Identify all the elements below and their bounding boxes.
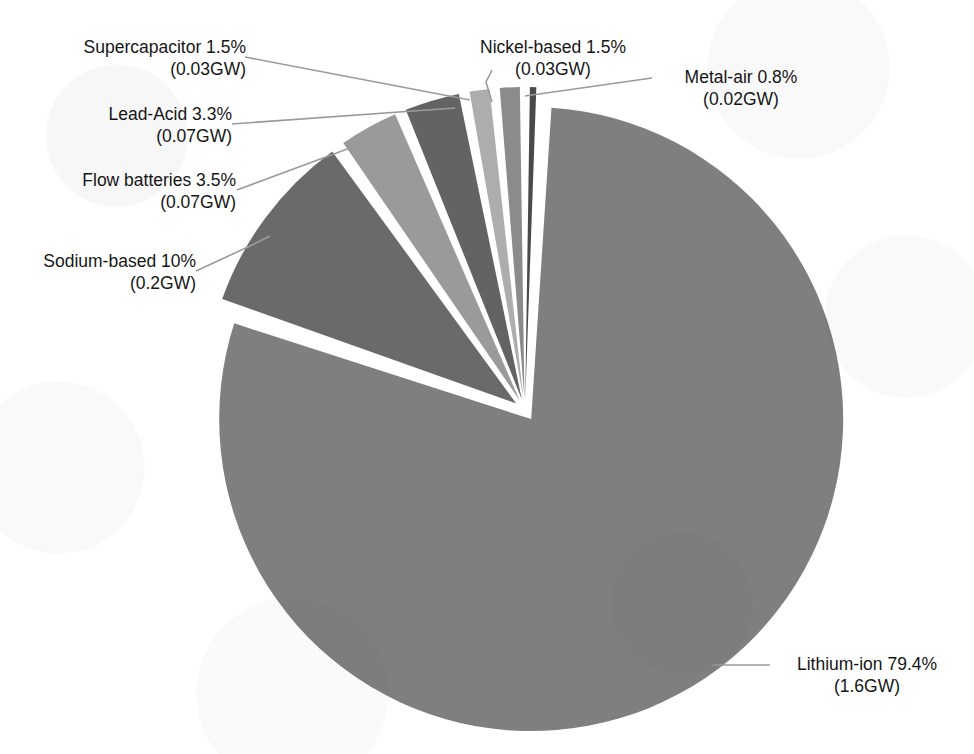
label-lead-acid-line2: (0.07GW)	[40, 125, 232, 147]
label-lead-acid-line1: Lead-Acid 3.3%	[40, 103, 232, 125]
label-lithium-ion-line1: Lithium-ion 79.4%	[778, 653, 956, 675]
label-lithium-ion-line2: (1.6GW)	[778, 675, 956, 697]
label-metal-air-line2: (0.02GW)	[652, 88, 830, 110]
label-nickel-based: Nickel-based 1.5% (0.03GW)	[462, 36, 644, 81]
label-supercapacitor-line1: Supercapacitor 1.5%	[40, 36, 246, 58]
label-nickel-based-line1: Nickel-based 1.5%	[462, 36, 644, 58]
pie-slice-metal-air	[525, 87, 536, 399]
label-supercapacitor: Supercapacitor 1.5% (0.03GW)	[40, 36, 246, 81]
label-flow-batteries-line1: Flow batteries 3.5%	[30, 169, 236, 191]
label-sodium-based-line1: Sodium-based 10%	[10, 250, 196, 272]
label-sodium-based: Sodium-based 10% (0.2GW)	[10, 250, 196, 295]
label-lithium-ion: Lithium-ion 79.4% (1.6GW)	[778, 653, 956, 698]
label-flow-batteries: Flow batteries 3.5% (0.07GW)	[30, 169, 236, 214]
label-flow-batteries-line2: (0.07GW)	[30, 191, 236, 213]
label-nickel-based-line2: (0.03GW)	[462, 58, 644, 80]
label-supercapacitor-line2: (0.03GW)	[40, 58, 246, 80]
label-lead-acid: Lead-Acid 3.3% (0.07GW)	[40, 103, 232, 148]
label-sodium-based-line2: (0.2GW)	[10, 272, 196, 294]
leader-line-supercapacitor	[245, 57, 470, 100]
label-metal-air: Metal-air 0.8% (0.02GW)	[652, 66, 830, 111]
label-metal-air-line1: Metal-air 0.8%	[652, 66, 830, 88]
